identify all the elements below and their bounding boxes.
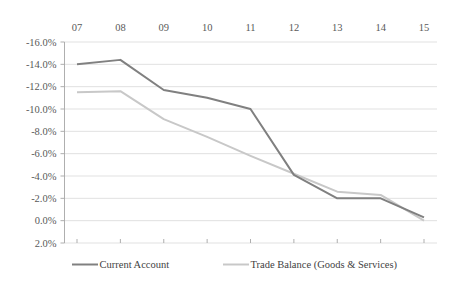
chart-legend: Current AccountTrade Balance (Goods & Se…	[72, 259, 398, 271]
y-axis-label-9: 2.0%	[35, 238, 57, 249]
y-axis-label-4: -8.0%	[31, 126, 57, 137]
x-axis-label-07: 07	[72, 22, 83, 33]
y-axis-label-8: 0.0%	[35, 215, 57, 226]
y-axis-label-0: -16.0%	[26, 37, 57, 48]
x-axis-label-09: 09	[159, 22, 170, 33]
y-axis-labels-group: -16.0%-14.0%-12.0%-10.0%-8.0%-6.0%-4.0%-…	[26, 37, 57, 249]
x-axis-label-14: 14	[375, 22, 386, 33]
y-axis-label-5: -6.0%	[31, 148, 57, 159]
gridlines-group	[65, 42, 438, 243]
x-axis-labels-group: 070809101112131415	[72, 22, 430, 33]
x-axis-label-08: 08	[115, 22, 126, 33]
x-axis-label-13: 13	[332, 22, 343, 33]
x-axis-label-12: 12	[289, 22, 300, 33]
y-axis-label-2: -12.0%	[26, 81, 57, 92]
x-axis-label-11: 11	[245, 22, 255, 33]
y-axis-label-6: -4.0%	[31, 171, 57, 182]
y-axis-label-7: -2.0%	[31, 193, 57, 204]
legend-label-trade-balance: Trade Balance (Goods & Services)	[251, 259, 398, 271]
chart-container: -16.0%-14.0%-12.0%-10.0%-8.0%-6.0%-4.0%-…	[0, 0, 449, 290]
legend-label-current-account: Current Account	[100, 259, 170, 270]
x-axis-ticks-group	[77, 239, 424, 243]
series-lines-group	[77, 60, 424, 221]
x-axis-label-10: 10	[202, 22, 213, 33]
y-axis-label-3: -10.0%	[26, 104, 57, 115]
x-axis-label-15: 15	[419, 22, 430, 33]
line-chart: -16.0%-14.0%-12.0%-10.0%-8.0%-6.0%-4.0%-…	[0, 0, 449, 290]
y-axis-label-1: -14.0%	[26, 59, 57, 70]
y-axis-ticks-group	[61, 42, 65, 243]
